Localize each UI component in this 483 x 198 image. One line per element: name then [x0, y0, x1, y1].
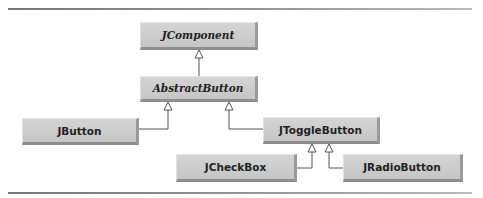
- node-label: JToggleButton: [279, 124, 362, 136]
- inheritance-arrow-icon: [308, 144, 316, 152]
- inheritance-arrow-icon: [164, 102, 172, 110]
- node-label: JCheckBox: [205, 161, 266, 173]
- node-jtogglebutton: JToggleButton: [263, 117, 380, 144]
- inheritance-arrow-icon: [325, 144, 333, 152]
- node-jbutton: JButton: [22, 118, 139, 145]
- node-label: JButton: [57, 125, 101, 137]
- inheritance-arrow-icon: [195, 50, 203, 58]
- inheritance-arrow-icon: [225, 102, 233, 110]
- node-label: JComponent: [162, 29, 235, 41]
- node-abstractbutton: AbstractButton: [140, 76, 258, 102]
- node-label: JRadioButton: [363, 161, 441, 173]
- node-label: AbstractButton: [153, 82, 244, 94]
- node-jradiobutton: JRadioButton: [343, 154, 463, 182]
- node-jcomponent: JComponent: [140, 22, 258, 50]
- node-jcheckbox: JCheckBox: [176, 154, 297, 182]
